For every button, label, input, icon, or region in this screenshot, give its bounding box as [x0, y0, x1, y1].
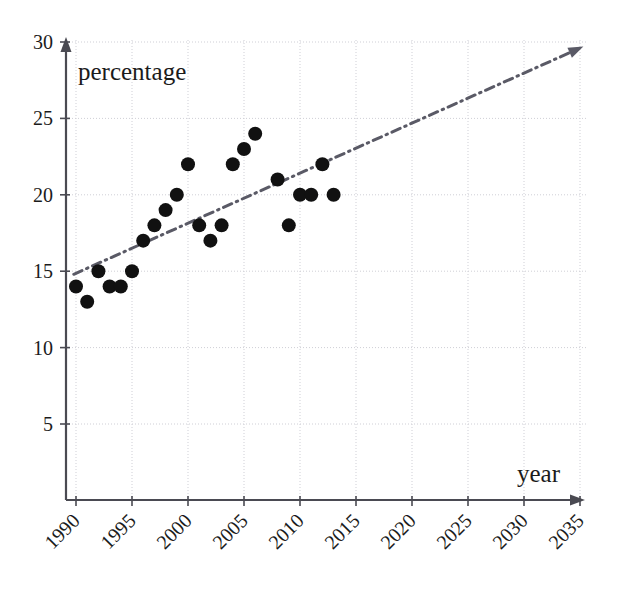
x-tick-label: 2015 [320, 509, 364, 553]
data-point [226, 157, 240, 171]
x-tick-label: 1995 [96, 509, 140, 553]
trend-line-arrow-icon [567, 47, 583, 58]
data-point [136, 234, 150, 248]
grid-lines [66, 40, 588, 500]
x-tick-label: 2005 [208, 509, 252, 553]
data-point [237, 142, 251, 156]
x-axis-arrow-icon [570, 495, 585, 506]
chart-svg: 51015202530 1990199520002005201020152020… [0, 0, 622, 590]
data-point [147, 218, 161, 232]
data-point [282, 218, 296, 232]
y-axis-title: percentage [78, 58, 186, 85]
y-tick-label: 5 [43, 413, 53, 435]
x-tick-label: 2030 [488, 509, 532, 553]
y-tick-label: 20 [33, 184, 53, 206]
data-point [192, 218, 206, 232]
data-point [125, 264, 139, 278]
x-tick-label: 2010 [264, 509, 308, 553]
data-point [215, 218, 229, 232]
data-point [159, 203, 173, 217]
x-tick-label: 2025 [432, 509, 476, 553]
data-point [114, 279, 128, 293]
data-point [304, 188, 318, 202]
data-point [181, 157, 195, 171]
y-tick-label: 10 [33, 337, 53, 359]
data-point [248, 127, 262, 141]
x-tick-label: 1990 [40, 509, 84, 553]
data-point [327, 188, 341, 202]
data-point [315, 157, 329, 171]
x-tick-label: 2000 [152, 509, 196, 553]
x-axis-tick-labels: 1990199520002005201020152020202520302035 [40, 509, 588, 553]
data-point [80, 295, 94, 309]
data-point [203, 234, 217, 248]
x-tick-label: 2035 [544, 509, 588, 553]
y-tick-label: 25 [33, 107, 53, 129]
y-tick-label: 30 [33, 31, 53, 53]
y-tick-label: 15 [33, 260, 53, 282]
y-axis-tick-labels: 51015202530 [33, 31, 53, 435]
x-axis-title: year [517, 460, 561, 487]
data-point [170, 188, 184, 202]
scatter-chart: 51015202530 1990199520002005201020152020… [0, 0, 622, 590]
x-tick-label: 2020 [376, 509, 420, 553]
data-point [91, 264, 105, 278]
data-point [69, 279, 83, 293]
data-point [271, 173, 285, 187]
y-axis-arrow-icon [61, 37, 72, 52]
